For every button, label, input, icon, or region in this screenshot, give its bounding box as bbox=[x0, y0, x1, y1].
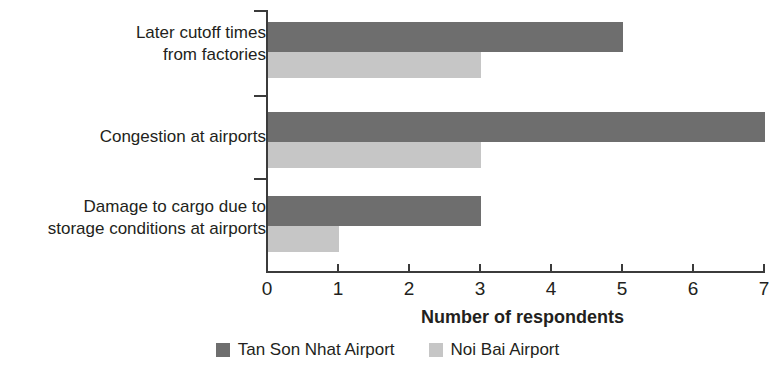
category-label-congestion-at-airports: Congestion at airports bbox=[26, 126, 266, 148]
x-axis-title: Number of respondents bbox=[0, 307, 775, 328]
legend-item-tan-son-nhat: Tan Son Nhat Airport bbox=[216, 340, 395, 360]
legend-label: Tan Son Nhat Airport bbox=[238, 340, 395, 360]
bar-noi-bai-damage bbox=[268, 226, 339, 252]
x-tick-mark bbox=[621, 264, 623, 273]
category-label-line: Damage to cargo due to bbox=[26, 196, 266, 218]
x-tick-mark bbox=[479, 264, 481, 273]
x-tick-mark bbox=[408, 264, 410, 273]
x-tick-mark bbox=[266, 264, 268, 273]
bar-tan-son-nhat-congestion bbox=[268, 112, 765, 142]
legend-swatch-icon bbox=[216, 343, 230, 357]
x-tick-label: 0 bbox=[247, 278, 287, 300]
x-tick-label: 6 bbox=[673, 278, 713, 300]
x-tick-mark bbox=[337, 264, 339, 273]
bar-chart: Later cutoff times from factories Conges… bbox=[0, 0, 775, 369]
category-label-line: storage conditions at airports bbox=[26, 218, 266, 240]
x-tick-label: 1 bbox=[318, 278, 358, 300]
category-separator-tick bbox=[254, 10, 266, 12]
chart-legend: Tan Son Nhat Airport Noi Bai Airport bbox=[0, 340, 775, 360]
legend-label: Noi Bai Airport bbox=[451, 340, 560, 360]
bar-noi-bai-congestion bbox=[268, 142, 481, 168]
x-tick-label: 2 bbox=[389, 278, 429, 300]
category-label-line: from factories bbox=[26, 44, 266, 66]
legend-swatch-icon bbox=[429, 343, 443, 357]
x-tick-label: 5 bbox=[602, 278, 642, 300]
category-label-line: Later cutoff times bbox=[26, 22, 266, 44]
x-tick-mark bbox=[692, 264, 694, 273]
x-tick-mark bbox=[550, 264, 552, 273]
x-tick-label: 4 bbox=[531, 278, 571, 300]
category-separator-tick bbox=[254, 95, 266, 97]
legend-item-noi-bai: Noi Bai Airport bbox=[429, 340, 560, 360]
bar-tan-son-nhat-later-cutoff bbox=[268, 22, 623, 52]
plot-area: 01234567 bbox=[266, 10, 763, 272]
x-tick-mark bbox=[763, 264, 765, 273]
category-separator-tick bbox=[254, 178, 266, 180]
x-axis-line bbox=[266, 271, 765, 273]
category-label-line: Congestion at airports bbox=[26, 126, 266, 148]
category-label-damage-to-cargo: Damage to cargo due to storage condition… bbox=[26, 196, 266, 240]
x-tick-label: 3 bbox=[460, 278, 500, 300]
bar-tan-son-nhat-damage bbox=[268, 196, 481, 226]
x-tick-label: 7 bbox=[744, 278, 775, 300]
bar-noi-bai-later-cutoff bbox=[268, 52, 481, 78]
category-label-later-cutoff-times: Later cutoff times from factories bbox=[26, 22, 266, 66]
